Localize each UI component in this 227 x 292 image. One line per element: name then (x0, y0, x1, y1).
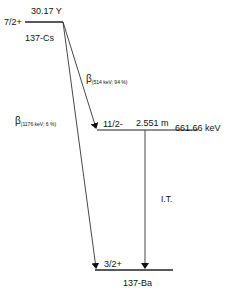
daughter-spin-parity: 3/2+ (104, 260, 122, 269)
parent-nuclide: 137-Cs (25, 34, 54, 43)
intermediate-half-life: 2.551 m (136, 119, 169, 128)
beta2-detail: (1176 keV; 6 %) (21, 121, 56, 127)
intermediate-spin-parity: 11/2- (103, 120, 123, 129)
intermediate-energy: 661.66 keV (175, 124, 221, 133)
parent-half-life: 30.17 Y (31, 7, 62, 16)
decay-scheme-graphic (0, 0, 227, 292)
beta1-detail: (514 keV; 94 %) (92, 79, 128, 85)
daughter-nuclide: 137-Ba (123, 279, 152, 288)
beta2-label: β(1176 keV; 6 %) (15, 116, 56, 127)
it-label: I.T. (161, 195, 172, 204)
beta1-label: β(514 keV; 94 %) (86, 74, 127, 85)
parent-spin-parity: 7/2+ (4, 18, 22, 27)
beta2-arrow (63, 22, 96, 268)
